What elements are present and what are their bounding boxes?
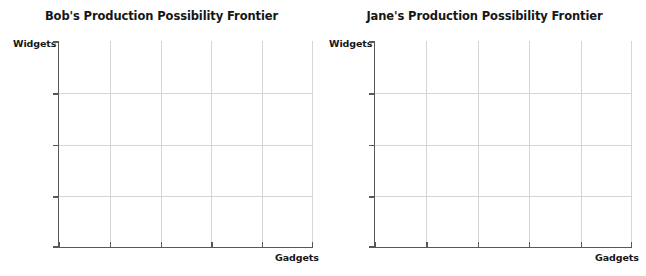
gridline-horizontal <box>375 196 631 197</box>
y-axis-tick <box>53 196 59 198</box>
gridline-horizontal <box>59 145 312 146</box>
y-axis-label-bob: Widgets <box>13 38 56 49</box>
gridline-vertical <box>631 41 632 247</box>
y-axis-tick <box>369 41 375 43</box>
gridline-horizontal <box>59 93 312 94</box>
y-axis-tick <box>369 196 375 198</box>
y-axis-tick <box>53 93 59 95</box>
y-axis-tick <box>369 145 375 147</box>
plot-area-jane <box>374 41 631 248</box>
chart-title-jane: Jane's Production Possibility Frontier <box>323 9 646 23</box>
x-axis-label-jane: Gadgets <box>595 252 639 263</box>
figure-container: Bob's Production Possibility Frontier Wi… <box>0 0 646 276</box>
y-axis-tick <box>369 246 375 248</box>
y-axis-tick <box>53 41 59 43</box>
gridline-horizontal <box>59 196 312 197</box>
chart-panel-bob: Bob's Production Possibility Frontier Wi… <box>0 0 323 276</box>
chart-panel-jane: Jane's Production Possibility Frontier W… <box>323 0 646 276</box>
x-axis-tick <box>59 242 60 248</box>
gridline-horizontal <box>375 145 631 146</box>
y-axis-tick <box>53 246 59 248</box>
gridline-horizontal <box>375 93 631 94</box>
plot-area-bob <box>58 41 312 248</box>
chart-title-bob: Bob's Production Possibility Frontier <box>0 9 323 23</box>
x-axis-tick <box>529 242 530 248</box>
x-axis-tick <box>110 242 111 248</box>
x-axis-tick <box>211 242 212 248</box>
x-axis-label-bob: Gadgets <box>275 252 319 263</box>
y-axis-tick <box>53 145 59 147</box>
y-axis-label-jane: Widgets <box>329 38 372 49</box>
x-axis-tick <box>426 242 427 248</box>
gridline-vertical <box>312 41 313 247</box>
x-axis-tick <box>375 242 376 248</box>
x-axis-tick <box>262 242 263 248</box>
x-axis-tick <box>312 242 313 248</box>
x-axis-tick <box>631 242 632 248</box>
y-axis-tick <box>369 93 375 95</box>
x-axis-tick <box>478 242 479 248</box>
x-axis-tick <box>581 242 582 248</box>
x-axis-tick <box>161 242 162 248</box>
